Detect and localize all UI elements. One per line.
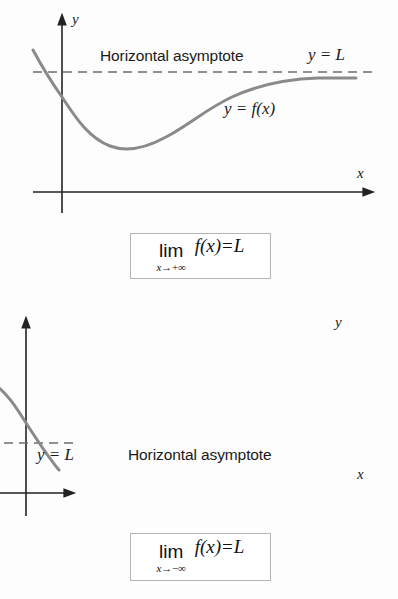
limit-value: L (234, 235, 245, 256)
limit-function: f(x) (195, 235, 221, 256)
limit-equals: = (221, 536, 234, 557)
limit-subscript-target: +∞ (172, 261, 186, 273)
formula-box-positive-infinity: lim x→+∞ f(x)=L (130, 233, 271, 279)
limit-subscript: x→−∞ (157, 563, 186, 574)
y-axis-label: y (72, 12, 79, 27)
limit-operator: lim x→+∞ (157, 241, 186, 273)
limit-subscript-target: −∞ (172, 562, 186, 574)
asymptote-equation-label: y = L (308, 46, 345, 63)
function-curve (33, 50, 356, 149)
limit-expression: f(x)=L (195, 235, 245, 257)
horizontal-asymptote-label: Horizontal asymptote (100, 48, 244, 64)
limit-equals: = (221, 235, 234, 256)
y-axis-label: y (335, 315, 342, 330)
limit-value: L (234, 536, 245, 557)
limit-expression: f(x)=L (195, 536, 245, 558)
curve-equation-label: y = f(x) (224, 100, 275, 117)
formula-box-negative-infinity: lim x→−∞ f(x)=L (130, 533, 271, 581)
figure-limit-positive-infinity: y x Horizontal asymptote y = L y = f(x) … (0, 0, 398, 300)
figure-limit-negative-infinity: y x y = L Horizontal asymptote lim x→−∞ … (0, 299, 398, 599)
limit-subscript-arrow: → (161, 562, 172, 574)
x-axis-label: x (357, 166, 364, 181)
asymptote-equation-label: y = L (37, 446, 74, 463)
horizontal-asymptote-label: Horizontal asymptote (128, 447, 272, 463)
limit-subscript: x→+∞ (157, 262, 186, 273)
limit-operator: lim x→−∞ (157, 542, 186, 574)
limit-word: lim (159, 542, 183, 561)
x-axis-label: x (357, 467, 364, 482)
limit-subscript-arrow: → (161, 261, 172, 273)
limit-word: lim (159, 241, 183, 260)
limit-function: f(x) (195, 536, 221, 557)
